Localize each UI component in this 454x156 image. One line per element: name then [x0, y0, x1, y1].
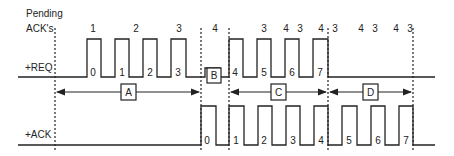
pending-count: 4 — [212, 23, 218, 34]
ack-pulse-label: 1 — [233, 135, 239, 146]
req-pulse-label: 5 — [261, 67, 267, 78]
pending-count: 3 — [332, 23, 338, 34]
pending-counts: 1 2 3 4 3 4 3 4 3 4 3 4 3 — [90, 23, 413, 34]
box-b-label: B — [211, 70, 218, 81]
acks-label: ACK's — [26, 23, 53, 34]
ack-label: +ACK — [25, 129, 52, 140]
req-pulse-label: 4 — [232, 67, 238, 78]
pending-count: 3 — [297, 23, 303, 34]
req-pulse-label: 7 — [317, 67, 323, 78]
pending-count: 4 — [283, 23, 289, 34]
pending-count: 1 — [90, 23, 96, 34]
ack-pulse-label: 7 — [403, 135, 409, 146]
ack-pulse-label: 6 — [375, 135, 381, 146]
req-pulse-label: 3 — [175, 67, 181, 78]
timing-diagram: B A C D Pending ACK's +REQ +ACK 1 2 3 4 … — [0, 0, 454, 156]
req-pulse-label: 6 — [289, 67, 295, 78]
req-pulse-label: 2 — [147, 67, 153, 78]
pending-label: Pending — [26, 8, 63, 19]
pending-count: 4 — [318, 23, 324, 34]
pending-count: 3 — [176, 23, 182, 34]
req-pulse-label: 1 — [119, 67, 125, 78]
interval-c-label: C — [275, 87, 282, 98]
ack-pulse-label: 3 — [290, 135, 296, 146]
pending-count: 3 — [372, 23, 378, 34]
pending-count: 3 — [261, 23, 267, 34]
pending-count: 2 — [133, 23, 139, 34]
interval-d-label: D — [367, 87, 374, 98]
req-waveform — [18, 39, 435, 77]
reference-lines — [55, 28, 413, 150]
ack-pulse-label: 2 — [261, 135, 267, 146]
pending-count: 3 — [407, 23, 413, 34]
req-pulse-label: 0 — [90, 67, 96, 78]
ack-pulse-label: 0 — [204, 135, 210, 146]
pending-count: 4 — [358, 23, 364, 34]
ack-waveform — [18, 106, 435, 145]
ack-pulse-label: 5 — [346, 135, 352, 146]
pending-count: 4 — [393, 23, 399, 34]
ack-pulse-label: 4 — [318, 135, 324, 146]
interval-a-label: A — [125, 87, 132, 98]
req-label: +REQ — [25, 62, 53, 73]
